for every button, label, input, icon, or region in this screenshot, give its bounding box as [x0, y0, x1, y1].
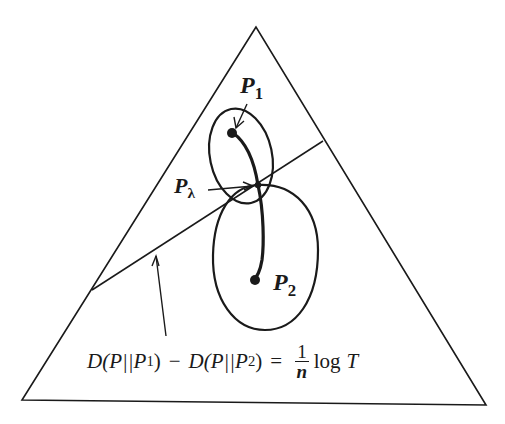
p1-point: [227, 128, 237, 138]
plambda-arrow-icon: [208, 182, 253, 190]
plambda-label: Pλ: [174, 173, 195, 202]
plambda-label-text: P: [174, 173, 187, 198]
eq-term-2-sub: 2: [248, 353, 255, 370]
eq-equals: =: [270, 349, 282, 374]
p2-divergence-ball: [213, 185, 318, 330]
p1-label-text: P: [240, 72, 255, 98]
p2-point: [250, 275, 260, 285]
p1-label-sub: 1: [255, 84, 263, 103]
plambda-point: [255, 182, 261, 188]
eq-threshold-t: T: [346, 349, 358, 374]
geodesic-curve: [233, 133, 263, 280]
eq-fraction: 1 n: [295, 342, 309, 381]
p2-label: P2: [273, 269, 296, 301]
eq-term-1-sub: 1: [146, 353, 153, 370]
plambda-label-sub: λ: [187, 184, 195, 201]
eq-term-2-close: ): [255, 349, 262, 374]
boundary-arrow-icon: [152, 256, 166, 336]
boundary-equation: D(P||P1) − D(P||P2) = 1 n log T: [87, 342, 358, 381]
p2-label-text: P: [273, 269, 288, 295]
eq-fraction-denominator: n: [297, 362, 308, 381]
eq-fraction-numerator: 1: [295, 342, 309, 362]
eq-term-1: D(P||P: [87, 349, 146, 374]
eq-minus: −: [169, 349, 181, 374]
eq-term-2: D(P||P: [189, 349, 248, 374]
decision-boundary-line: [92, 141, 323, 290]
p2-label-sub: 2: [288, 281, 296, 300]
simplex-diagram: P1 Pλ P2 D(P||P1) − D(P||P2) = 1 n log T: [0, 0, 505, 424]
eq-log: log: [314, 349, 341, 374]
p1-label: P1: [240, 72, 263, 104]
eq-term-1-close: ): [154, 349, 161, 374]
